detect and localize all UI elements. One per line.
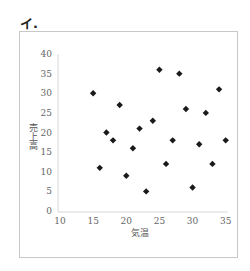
data-point-marker (143, 188, 149, 194)
data-point-marker (169, 137, 175, 143)
x-tick-label: 15 (87, 216, 99, 226)
y-tick-label: 30 (41, 88, 53, 98)
data-point-marker (123, 172, 129, 178)
y-tick-label: 40 (41, 49, 53, 59)
data-point-marker (176, 70, 182, 76)
data-point-marker (203, 110, 209, 116)
data-point-marker (156, 67, 162, 73)
data-points (90, 67, 229, 195)
y-tick-label: 10 (41, 167, 53, 177)
x-axis-ticks: 101520253035 (54, 216, 231, 226)
data-point-marker (196, 141, 202, 147)
axes (58, 54, 228, 212)
x-tick-label: 30 (187, 216, 199, 226)
x-tick-label: 20 (121, 216, 133, 226)
data-point-marker (163, 161, 169, 167)
y-tick-label: 0 (46, 206, 52, 216)
data-point-marker (90, 90, 96, 96)
x-tick-label: 25 (154, 216, 166, 226)
y-axis-ticks: 0510152025303540 (41, 49, 53, 216)
data-point-marker (209, 161, 215, 167)
data-point-marker (150, 118, 156, 124)
data-point-marker (103, 129, 109, 135)
data-point-marker (97, 165, 103, 171)
data-point-marker (183, 106, 189, 112)
y-tick-label: 20 (41, 128, 53, 138)
y-tick-label: 35 (41, 69, 53, 79)
y-tick-label: 5 (46, 186, 52, 196)
y-tick-label: 25 (41, 108, 53, 118)
data-point-marker (110, 137, 116, 143)
data-point-marker (216, 86, 222, 92)
svg-text:高: 高 (29, 140, 38, 151)
data-point-marker (116, 102, 122, 108)
x-tick-label: 35 (220, 216, 232, 226)
scatter-chart: 101520253035 0510152025303540 気温 売上高 (0, 0, 250, 271)
data-point-marker (223, 137, 229, 143)
data-point-marker (136, 125, 142, 131)
x-tick-label: 10 (54, 216, 66, 226)
y-tick-label: 15 (41, 147, 53, 157)
y-axis-title: 売上高 (29, 122, 38, 151)
x-axis-title: 気温 (131, 227, 149, 238)
data-point-marker (189, 184, 195, 190)
data-point-marker (130, 145, 136, 151)
